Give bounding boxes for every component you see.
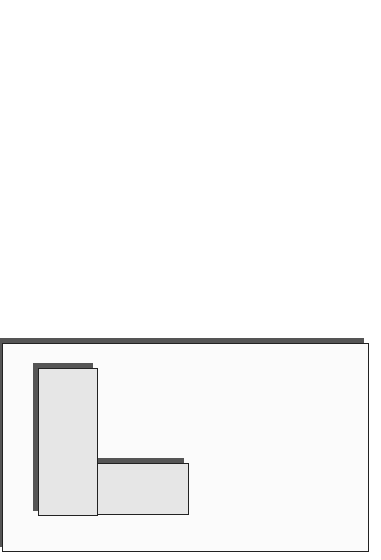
- developmental-functions: [38, 368, 98, 516]
- diagram-canvas: /* placeholder – layout resolved below *…: [0, 0, 381, 560]
